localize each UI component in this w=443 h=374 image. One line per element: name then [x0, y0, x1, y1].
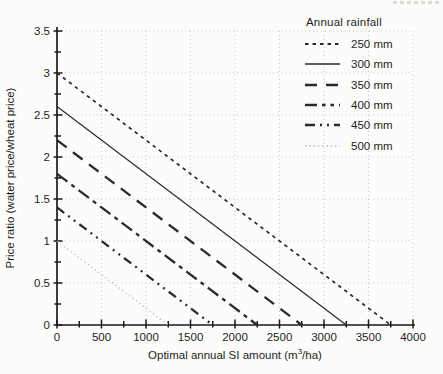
x-tick-label: 0	[54, 331, 60, 343]
legend-item: 250 mm	[304, 34, 439, 54]
y-axis-title: Price ratio (water price/wheat price)	[4, 87, 16, 268]
legend-label: 500 mm	[351, 140, 393, 152]
legend-sample-line	[304, 142, 341, 150]
y-tick-label: 3.5	[34, 25, 50, 37]
x-tick-label: 1000	[133, 331, 159, 343]
x-axis-title: Optimal annual SI amount (m3/ha)	[148, 347, 322, 361]
series-line-450-mm	[57, 207, 213, 325]
legend-label: 250 mm	[351, 38, 393, 50]
series-line-300-mm	[57, 107, 346, 325]
x-tick-label: 4000	[400, 331, 426, 343]
legend-item: 450 mm	[304, 115, 439, 135]
x-tick-label: 3500	[356, 331, 382, 343]
y-tick-label: 1	[44, 235, 50, 247]
legend-items: 250 mm300 mm350 mm400 mm450 mm500 mm	[304, 34, 439, 156]
series-line-350-mm	[57, 140, 302, 325]
legend-sample-line	[304, 40, 341, 48]
legend-label: 450 mm	[351, 119, 393, 131]
y-tick-label: 0.5	[34, 277, 50, 289]
cut-off-header-text-fragment	[393, 1, 439, 4]
x-tick-label: 2500	[267, 331, 293, 343]
series-line-400-mm	[57, 174, 257, 325]
legend-label: 400 mm	[351, 99, 393, 111]
legend-item: 350 mm	[304, 75, 439, 95]
x-tick-label: 2000	[222, 331, 248, 343]
legend-item: 400 mm	[304, 95, 439, 115]
y-tick-label: 3	[44, 67, 50, 79]
x-tick-label: 3000	[311, 331, 337, 343]
legend-item: 300 mm	[304, 54, 439, 74]
legend-sample-line	[304, 101, 341, 109]
y-tick-label: 0	[44, 319, 50, 331]
legend-label: 300 mm	[351, 58, 393, 70]
legend-sample-line	[304, 121, 341, 129]
legend-title: Annual rainfall	[306, 16, 439, 28]
y-tick-label: 2.5	[34, 109, 50, 121]
legend-sample-line	[304, 60, 341, 68]
legend-sample-line	[304, 81, 341, 89]
legend: Annual rainfall 250 mm300 mm350 mm400 mm…	[304, 16, 439, 156]
legend-item: 500 mm	[304, 135, 439, 155]
y-tick-label: 2	[44, 151, 50, 163]
y-tick-label: 1.5	[34, 193, 50, 205]
legend-label: 350 mm	[351, 79, 393, 91]
x-tick-label: 1500	[178, 331, 204, 343]
x-tick-label: 500	[92, 331, 111, 343]
figure-page: 0500100015002000250030003500400000.511.5…	[0, 0, 443, 374]
